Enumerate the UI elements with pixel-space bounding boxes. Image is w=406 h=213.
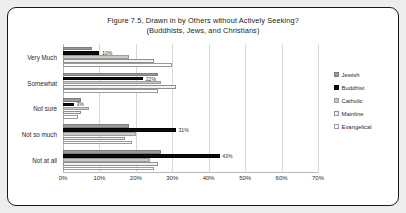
legend-swatch-icon bbox=[334, 111, 339, 116]
legend-label: Evangelical bbox=[342, 124, 372, 130]
legend-item-jewish[interactable]: Jewish bbox=[334, 68, 372, 81]
bar-mainline-not-sure bbox=[63, 111, 81, 115]
bar-evangelical-not-so-much bbox=[63, 141, 132, 145]
x-axis-tick: 10% bbox=[93, 175, 105, 181]
bar-evangelical-not-at-all bbox=[63, 167, 154, 171]
bar-row bbox=[63, 115, 318, 119]
bar-evangelical-not-sure bbox=[63, 115, 78, 119]
x-axis-tick: 40% bbox=[203, 175, 215, 181]
x-axis: 0%10%20%30%40%50%60%70% bbox=[63, 175, 318, 187]
bar-buddhist-somewhat bbox=[63, 77, 143, 81]
category-label: Somewhat bbox=[27, 79, 57, 86]
category-label: Very Much bbox=[27, 53, 57, 60]
bar-buddhist-not-sure bbox=[63, 103, 74, 107]
legend-label: Mainline bbox=[342, 111, 364, 117]
bar-row bbox=[63, 158, 318, 162]
bar-row: 31% bbox=[63, 128, 318, 132]
legend-swatch-icon bbox=[334, 98, 339, 103]
bar-row bbox=[63, 150, 318, 154]
bar-row bbox=[63, 111, 318, 115]
bar-group: Somewhat22% bbox=[63, 70, 318, 96]
bar-catholic-not-at-all bbox=[63, 158, 150, 162]
bar-row bbox=[63, 63, 318, 67]
bar-group: Not at all43% bbox=[63, 147, 318, 173]
bar-row: 10% bbox=[63, 51, 318, 55]
bar-row bbox=[63, 132, 318, 136]
x-axis-tick: 20% bbox=[130, 175, 142, 181]
bar-catholic-not-sure bbox=[63, 107, 89, 111]
chart-title-block: Figure 7.5, Drawn in by Others without A… bbox=[8, 16, 398, 36]
bar-evangelical-somewhat bbox=[63, 89, 158, 93]
legend-label: Catholic bbox=[342, 98, 363, 104]
bar-row: 3% bbox=[63, 103, 318, 107]
bar-row bbox=[63, 141, 318, 145]
legend-item-mainline[interactable]: Mainline bbox=[334, 107, 372, 120]
bar-mainline-not-so-much bbox=[63, 137, 125, 141]
x-axis-tick: 70% bbox=[312, 175, 324, 181]
x-axis-tick: 0% bbox=[59, 175, 68, 181]
chart-title: Figure 7.5, Drawn in by Others without A… bbox=[8, 16, 398, 26]
category-label: Not at all bbox=[32, 157, 57, 164]
bar-row bbox=[63, 124, 318, 128]
bar-jewish-not-so-much bbox=[63, 124, 129, 128]
bar-mainline-not-at-all bbox=[63, 162, 158, 166]
legend-swatch-icon bbox=[334, 124, 339, 129]
bar-row bbox=[63, 81, 318, 85]
bar-catholic-somewhat bbox=[63, 81, 161, 85]
legend-label: Jewish bbox=[342, 72, 360, 78]
bar-row bbox=[63, 59, 318, 63]
bar-row bbox=[63, 85, 318, 89]
legend-item-buddhist[interactable]: Buddhist bbox=[334, 81, 372, 94]
legend-item-evangelical[interactable]: Evangelical bbox=[334, 120, 372, 133]
x-axis-tick: 60% bbox=[276, 175, 288, 181]
bar-row bbox=[63, 73, 318, 77]
bar-jewish-very-much bbox=[63, 47, 92, 51]
bar-catholic-not-so-much bbox=[63, 132, 136, 136]
bar-mainline-somewhat bbox=[63, 85, 176, 89]
x-axis-tick: 50% bbox=[239, 175, 251, 181]
bar-buddhist-not-so-much bbox=[63, 128, 176, 132]
bar-row: 22% bbox=[63, 77, 318, 81]
bar-evangelical-very-much bbox=[63, 63, 172, 67]
chart-subtitle: (Buddhists, Jews, and Christians) bbox=[8, 26, 398, 36]
bar-row bbox=[63, 167, 318, 171]
bar-group: Not so much31% bbox=[63, 121, 318, 147]
bar-buddhist-not-at-all bbox=[63, 154, 220, 158]
legend-item-catholic[interactable]: Catholic bbox=[334, 94, 372, 107]
bar-row bbox=[63, 89, 318, 93]
legend-swatch-icon bbox=[334, 85, 339, 90]
gridline bbox=[318, 44, 319, 173]
bar-row bbox=[63, 137, 318, 141]
category-label: Not so much bbox=[22, 131, 57, 138]
bar-group: Not sure3% bbox=[63, 96, 318, 122]
bar-row bbox=[63, 55, 318, 59]
bar-row bbox=[63, 98, 318, 102]
bar-row bbox=[63, 107, 318, 111]
bar-buddhist-very-much bbox=[63, 51, 99, 55]
chart-legend: JewishBuddhistCatholicMainlineEvangelica… bbox=[334, 68, 372, 133]
bar-jewish-not-at-all bbox=[63, 150, 161, 154]
legend-swatch-icon bbox=[334, 72, 339, 77]
chart-card: Figure 7.5, Drawn in by Others without A… bbox=[7, 7, 399, 206]
bar-row bbox=[63, 162, 318, 166]
bar-mainline-very-much bbox=[63, 59, 154, 63]
legend-label: Buddhist bbox=[342, 85, 365, 91]
bar-row: 43% bbox=[63, 154, 318, 158]
plot-area: Very Much10%Somewhat22%Not sure3%Not so … bbox=[63, 44, 318, 173]
bar-catholic-very-much bbox=[63, 55, 129, 59]
x-axis-tick: 30% bbox=[166, 175, 178, 181]
category-label: Not sure bbox=[33, 105, 57, 112]
bar-group: Very Much10% bbox=[63, 44, 318, 70]
